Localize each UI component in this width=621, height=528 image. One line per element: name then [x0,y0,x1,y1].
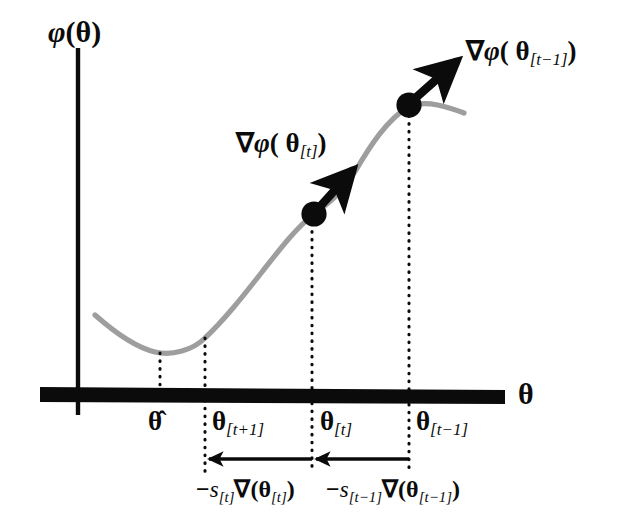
gradient-label-open: ( [500,36,509,66]
tick-label-sub: [t] [334,420,352,439]
tick-label-theta-hat: θ̂ [148,408,162,435]
nabla-icon: ∇ [382,476,398,502]
step-label-s: s [210,477,219,502]
gradient-label-phi: φ [254,128,270,158]
step-label-open: ( [398,476,406,502]
nabla-icon: ∇ [234,476,250,502]
gradient-label-theta-t: ∇φ( θ[t]) [236,130,327,160]
figure-canvas [0,0,621,528]
tick-label-theta-t: θ[t] [320,408,352,438]
x-axis-label-theta: θ [518,377,534,410]
gradient-label-open: ( [270,128,279,158]
step-label-t: −s[t]∇(θ[t]) [196,477,295,505]
gradient-descent-figure: φ(θ) θ ∇φ( θ[t]) ∇φ( θ[t−1]) θ̂ θ[t+1] θ… [0,0,621,528]
gradient-label-close: ) [568,36,577,66]
gradient-arrows [316,62,456,211]
step-label-theta: θ [258,476,271,502]
tick-label-theta: θ [320,406,334,436]
step-label-close: ) [287,476,295,502]
point-theta-t [301,201,326,226]
step-label-s: s [340,477,349,502]
tick-label-theta: θ [416,406,430,436]
tick-label-theta-t-plus-1: θ[t+1] [212,408,264,438]
y-axis-label-theta: θ [76,15,92,48]
tick-label-theta-hat-text: θ̂ [148,406,162,436]
gradient-label-theta-t-minus-1: ∇φ( θ[t−1]) [466,38,577,68]
nabla-icon: ∇ [236,128,254,158]
step-label-minus: − [326,476,340,502]
dotted-guides [160,108,409,472]
step-label-theta-sub: [t] [271,489,287,505]
gradient-label-close: ) [318,128,327,158]
gradient-label-theta: θ [286,128,300,158]
y-axis-label-paren-close: ) [91,15,101,48]
tick-label-sub: [t+1] [226,420,264,439]
point-theta-t-minus-1 [396,92,421,117]
step-label-s-sub: [t] [219,489,235,505]
step-label-minus: − [196,476,210,502]
y-axis-label-paren-open: ( [66,15,76,48]
step-label-s-sub: [t−1] [349,489,382,505]
gradient-label-phi: φ [484,36,500,66]
tick-label-theta-t-minus-1: θ[t−1] [416,408,468,438]
y-axis-label-phi: φ [48,15,66,48]
gradient-label-sub: [t] [300,142,318,161]
step-label-theta-sub: [t−1] [419,489,452,505]
nabla-icon: ∇ [466,36,484,66]
step-label-t-minus-1: −s[t−1]∇(θ[t−1]) [326,477,460,505]
x-axis [40,387,505,404]
gradient-label-theta: θ [516,36,530,66]
y-axis-label: φ(θ) [48,17,101,47]
tick-label-sub: [t−1] [430,420,468,439]
x-axis-label: θ [518,379,534,409]
step-label-theta: θ [406,476,419,502]
tick-label-theta: θ [212,406,226,436]
gradient-label-sub: [t−1] [530,50,568,69]
step-label-close: ) [452,476,460,502]
